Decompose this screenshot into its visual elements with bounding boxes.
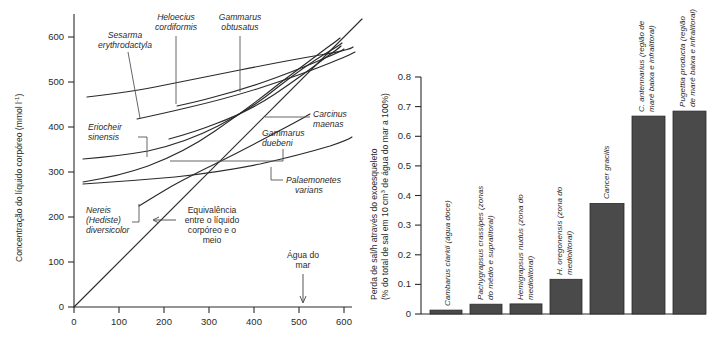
left-xtick-100: 100 <box>111 316 127 327</box>
curve-sesarma-erythrodactyla <box>87 47 353 97</box>
svg-text:varians: varians <box>295 185 323 195</box>
svg-text:Gammarus: Gammarus <box>262 128 305 138</box>
svg-text:corpóreo e o: corpóreo e o <box>188 225 236 235</box>
annotation-carcinus: Carcinus maenas <box>265 109 348 129</box>
bar-label-pugettia-producta-2: de maré baixa e infralitoral) <box>688 9 697 107</box>
annotation-equivalencia: Equivalência entre o líquido corpóreo e … <box>153 205 239 245</box>
svg-text:obtusatus: obtusatus <box>221 22 259 32</box>
right-ytick-0.4: 0.4 <box>398 190 411 201</box>
right-ytick-0: 0 <box>406 308 411 319</box>
left-y-ticks: 0 100 200 300 400 500 600 <box>48 31 74 312</box>
right-y-ticks: 0 0.1 0.2 0.3 0.4 0.5 0.6 0.7 0.8 <box>398 71 421 319</box>
annotation-heloecius: Heloecius cordiformis <box>155 12 198 104</box>
bar-label-h-oregonensis-1: H. oregonensis (zona do <box>555 186 564 275</box>
svg-text:Sesarma: Sesarma <box>108 30 143 40</box>
bar-cancer-gracilis[interactable] <box>590 204 624 315</box>
left-xtick-600: 600 <box>336 316 352 327</box>
annotation-nereis: Nereis (Hediste) diversicolor <box>86 204 139 235</box>
bar-label-c-antennarius-2: maré baixa e infralitoral) <box>647 25 656 112</box>
right-ylabel-line2: (% do total de sal em 10 cm3 de água do … <box>379 93 390 300</box>
svg-text:Equivalência: Equivalência <box>188 205 237 215</box>
bar-pachygrapsus-crassipes[interactable] <box>470 304 502 314</box>
svg-text:Nereis: Nereis <box>86 205 112 215</box>
left-ylabel-tail: ) <box>14 93 24 96</box>
bar-c-antennarius[interactable] <box>632 116 665 314</box>
left-x-ticks: 0 100 200 300 400 500 600 <box>71 307 352 327</box>
bar-label-cancer-gracilis: Cancer gracilis <box>602 145 611 199</box>
svg-text:Eriocheir: Eriocheir <box>88 122 123 132</box>
annotation-sesarma: Sesarma erythrodactyla <box>98 30 152 118</box>
right-ytick-0.7: 0.7 <box>398 101 411 112</box>
curve-carcinus-maenas <box>83 38 340 182</box>
bar-label-h-oregonensis-2: mediolitoral) <box>565 231 574 275</box>
bar-h-oregonensis[interactable] <box>550 279 582 314</box>
svg-text:Carcinus: Carcinus <box>313 109 348 119</box>
bar-pugettia-producta[interactable] <box>673 111 706 314</box>
svg-text:Água do: Água do <box>287 250 319 260</box>
right-ytick-0.6: 0.6 <box>398 130 411 141</box>
left-ytick-300: 300 <box>48 166 64 177</box>
left-panel-line-chart: Concentração do líquido corpóreo (mmol l… <box>13 12 362 327</box>
left-ytick-600: 600 <box>48 31 64 42</box>
leader-eriocheir <box>138 137 147 157</box>
svg-text:duebeni: duebeni <box>262 138 294 148</box>
bar-label-pugettia-producta-1: Pugettia producta (região <box>678 16 687 107</box>
svg-text:sinensis: sinensis <box>88 132 120 142</box>
bar-hemigrapsus-nudus[interactable] <box>510 304 542 314</box>
svg-text:entre o líquido: entre o líquido <box>185 215 240 225</box>
right-ytick-0.1: 0.1 <box>398 278 411 289</box>
annotation-palaemonetes: Palaemonetes varians <box>271 167 342 195</box>
leader-palaemonetes <box>271 167 283 180</box>
right-ytick-0.2: 0.2 <box>398 249 411 260</box>
right-ytick-0.3: 0.3 <box>398 219 411 230</box>
bar-cambarus-clarkii[interactable] <box>430 310 462 314</box>
left-ytick-200: 200 <box>48 211 64 222</box>
svg-text:(Hediste): (Hediste) <box>86 215 121 225</box>
svg-text:erythrodactyla: erythrodactyla <box>98 40 152 50</box>
svg-text:meio: meio <box>203 235 222 245</box>
svg-text:mar: mar <box>296 260 311 270</box>
svg-text:cordiformis: cordiformis <box>155 22 198 32</box>
bar-label-cambarus-clarkii: Cambarus clarkii (água doce) <box>443 200 452 306</box>
scientific-figure: Concentração do líquido corpóreo (mmol l… <box>0 0 714 348</box>
left-ytick-0: 0 <box>59 301 64 312</box>
left-ytick-400: 400 <box>48 121 64 132</box>
svg-text:Palaemonetes: Palaemonetes <box>286 175 342 185</box>
bar-label-hemigrapsus-nudus-2: mediolitoral) <box>526 256 535 300</box>
svg-text:diversicolor: diversicolor <box>86 225 131 235</box>
right-ylabel-line1: Perda de sal/h através do exoesqueleto <box>369 148 379 300</box>
right-y-axis-label: Perda de sal/h através do exoesqueleto (… <box>369 93 390 300</box>
left-ylabel-main: Concentração do líquido corpóreo (mmol l <box>14 102 24 262</box>
bar-label-pachygrapsus-crassipes-1: Pachygrapsus crassipes (zonas <box>476 186 485 300</box>
annotation-gammarus-obtusatus: Gammarus obtusatus <box>219 12 262 92</box>
left-xtick-300: 300 <box>201 316 217 327</box>
left-xtick-500: 500 <box>291 316 307 327</box>
leader-sesarma <box>128 52 140 118</box>
svg-text:Heloecius: Heloecius <box>157 12 195 22</box>
right-ytick-0.8: 0.8 <box>398 71 411 82</box>
left-xtick-0: 0 <box>71 316 76 327</box>
left-ytick-100: 100 <box>48 256 64 267</box>
bar-label-c-antennarius-1: C. antennarius (região de <box>637 20 646 112</box>
right-panel-bar-chart: Perda de sal/h através do exoesqueleto (… <box>369 9 706 319</box>
left-y-axis-label: Concentração do líquido corpóreo (mmol l… <box>13 93 24 262</box>
leader-nereis <box>132 204 139 222</box>
svg-text:Concentração do líquido corpór: Concentração do líquido corpóreo (mmol l… <box>13 93 24 262</box>
left-ytick-500: 500 <box>48 76 64 87</box>
svg-text:Gammarus: Gammarus <box>219 12 262 22</box>
left-xtick-200: 200 <box>156 316 172 327</box>
bar-label-hemigrapsus-nudus-1: Hemigrapsus nudus (zona do <box>516 194 525 300</box>
right-ytick-0.5: 0.5 <box>398 160 411 171</box>
annotation-eriocheir: Eriocheir sinensis <box>88 122 147 157</box>
svg-text:maenas: maenas <box>313 119 344 129</box>
bar-label-pachygrapsus-crassipes-2: do médio e supralitoral) <box>486 215 495 300</box>
left-xtick-400: 400 <box>246 316 262 327</box>
figure-svg: Concentração do líquido corpóreo (mmol l… <box>0 0 714 348</box>
annotation-agua-do-mar: Água do mar <box>287 250 319 303</box>
